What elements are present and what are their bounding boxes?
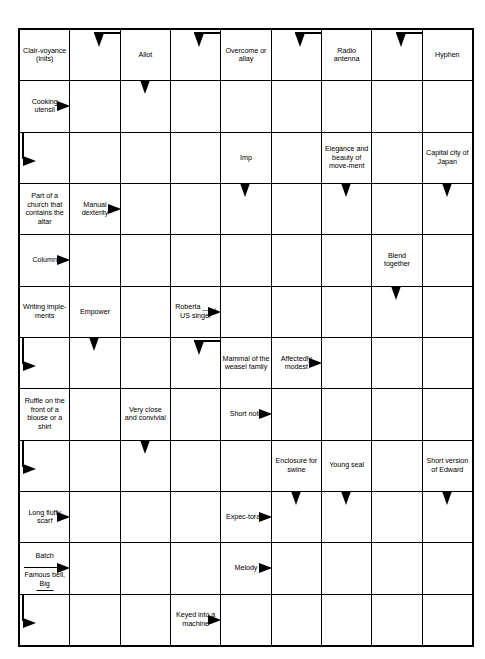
answer-cell[interactable] <box>271 389 321 440</box>
puzzle-row: ImpElegance and beauty of move-mentCapit… <box>19 132 473 183</box>
answer-cell[interactable] <box>271 543 321 594</box>
puzzle-row: Writing imple-mentsEmpowerRoberta ___, U… <box>19 286 473 337</box>
answer-cell[interactable] <box>19 440 70 491</box>
answer-cell[interactable] <box>70 491 120 542</box>
answer-cell[interactable] <box>170 440 220 491</box>
answer-cell[interactable] <box>372 337 422 388</box>
answer-cell[interactable] <box>372 440 422 491</box>
answer-cell[interactable] <box>422 543 473 594</box>
answer-cell[interactable] <box>422 81 473 132</box>
answer-cell[interactable] <box>321 235 371 286</box>
answer-cell[interactable] <box>120 235 170 286</box>
clue-cell: Young seal <box>321 440 371 491</box>
answer-cell[interactable] <box>120 132 170 183</box>
answer-cell[interactable] <box>422 389 473 440</box>
answer-cell[interactable] <box>170 543 220 594</box>
clue-cell: Melody <box>221 543 271 594</box>
answer-cell[interactable] <box>170 491 220 542</box>
arrow-down-icon <box>140 81 150 95</box>
arrow-right-icon <box>57 563 70 573</box>
answer-cell[interactable] <box>271 594 321 646</box>
answer-cell[interactable] <box>321 594 371 646</box>
arrow-corner-right-down-icon <box>194 340 220 358</box>
answer-cell[interactable] <box>70 29 120 81</box>
answer-cell[interactable] <box>372 491 422 542</box>
answer-cell[interactable] <box>19 337 70 388</box>
answer-cell[interactable] <box>271 183 321 234</box>
answer-cell[interactable] <box>271 29 321 81</box>
answer-cell[interactable] <box>221 594 271 646</box>
answer-cell[interactable] <box>221 286 271 337</box>
answer-cell[interactable] <box>321 337 371 388</box>
answer-cell[interactable] <box>221 183 271 234</box>
clue-cell: Keyed into a machine <box>170 594 220 646</box>
answer-cell[interactable] <box>372 132 422 183</box>
arrow-corner-down-right-icon <box>22 338 44 368</box>
answer-cell[interactable] <box>372 389 422 440</box>
answer-cell[interactable] <box>70 594 120 646</box>
puzzle-row: Keyed into a machine <box>19 594 473 646</box>
answer-cell[interactable] <box>120 286 170 337</box>
answer-cell[interactable] <box>422 491 473 542</box>
answer-cell[interactable] <box>120 183 170 234</box>
answer-cell[interactable] <box>70 543 120 594</box>
answer-cell[interactable] <box>120 81 170 132</box>
answer-cell[interactable] <box>372 183 422 234</box>
answer-cell[interactable] <box>321 286 371 337</box>
answer-cell[interactable] <box>170 337 220 388</box>
answer-cell[interactable] <box>120 543 170 594</box>
clue-cell: Overcome or allay <box>221 29 271 81</box>
puzzle-grid-body: Clair-voyance (inits)AllotOvercome or al… <box>19 29 473 646</box>
clue-cell: Enclosure for swine <box>271 440 321 491</box>
answer-cell[interactable] <box>70 389 120 440</box>
answer-cell[interactable] <box>170 29 220 81</box>
clue-text: Enclosure for swine <box>272 457 321 474</box>
answer-cell[interactable] <box>372 286 422 337</box>
answer-cell[interactable] <box>422 286 473 337</box>
answer-cell[interactable] <box>70 235 120 286</box>
answer-cell[interactable] <box>321 183 371 234</box>
answer-cell[interactable] <box>70 81 120 132</box>
answer-cell[interactable] <box>271 491 321 542</box>
answer-cell[interactable] <box>120 491 170 542</box>
answer-cell[interactable] <box>70 132 120 183</box>
answer-cell[interactable] <box>120 337 170 388</box>
answer-cell[interactable] <box>372 594 422 646</box>
answer-cell[interactable] <box>271 81 321 132</box>
answer-cell[interactable] <box>221 440 271 491</box>
answer-cell[interactable] <box>170 132 220 183</box>
answer-cell[interactable] <box>170 183 220 234</box>
answer-cell[interactable] <box>372 29 422 81</box>
answer-cell[interactable] <box>19 132 70 183</box>
answer-cell[interactable] <box>422 235 473 286</box>
answer-cell[interactable] <box>321 81 371 132</box>
answer-cell[interactable] <box>321 543 371 594</box>
arrow-right-icon <box>259 563 272 573</box>
answer-cell[interactable] <box>120 440 170 491</box>
answer-cell[interactable] <box>372 81 422 132</box>
answer-cell[interactable] <box>271 286 321 337</box>
answer-cell[interactable] <box>422 183 473 234</box>
answer-cell[interactable] <box>70 337 120 388</box>
answer-cell[interactable] <box>221 81 271 132</box>
answer-cell[interactable] <box>170 235 220 286</box>
answer-cell[interactable] <box>422 337 473 388</box>
answer-cell[interactable] <box>321 491 371 542</box>
answer-cell[interactable] <box>170 81 220 132</box>
arrow-down-icon <box>391 286 401 300</box>
clue-text: Batch <box>34 552 56 561</box>
answer-cell[interactable] <box>70 440 120 491</box>
answer-cell[interactable] <box>120 594 170 646</box>
puzzle-row: Enclosure for swineYoung sealShort versi… <box>19 440 473 491</box>
answer-cell[interactable] <box>422 594 473 646</box>
answer-cell[interactable] <box>372 543 422 594</box>
answer-cell[interactable] <box>271 235 321 286</box>
answer-cell[interactable] <box>321 389 371 440</box>
answer-cell[interactable] <box>170 389 220 440</box>
arrow-right-icon <box>57 255 70 265</box>
answer-cell[interactable] <box>221 235 271 286</box>
answer-cell[interactable] <box>19 594 70 646</box>
clue-cell: Expec-torate <box>221 491 271 542</box>
answer-cell[interactable] <box>271 132 321 183</box>
clue-text: Young seal <box>322 461 371 470</box>
